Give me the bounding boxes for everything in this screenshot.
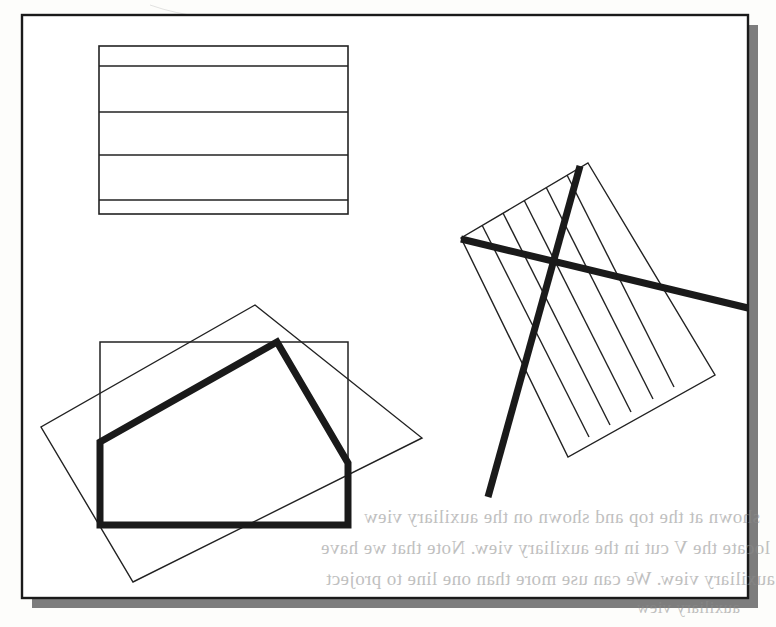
figure-page: shown at the top and shown on the auxili…	[0, 0, 776, 627]
technical-drawing-canvas	[0, 0, 776, 627]
frame-inner-fill	[22, 15, 748, 598]
